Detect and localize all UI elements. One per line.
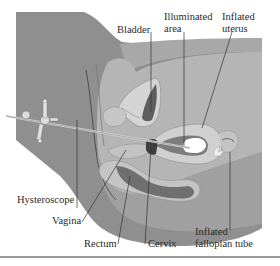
label-illuminated-area-2: area <box>164 23 182 34</box>
label-rectum: Rectum <box>84 238 117 249</box>
label-bladder: Bladder <box>117 24 151 35</box>
label-cervix: Cervix <box>148 238 177 249</box>
hysteroscopy-diagram: Bladder Illuminated area Inflated uterus… <box>0 0 280 266</box>
pubic-bone <box>103 107 126 126</box>
bottom-rule <box>0 256 280 258</box>
label-inflated-uterus-1: Inflated <box>222 11 255 22</box>
label-hysteroscope: Hysteroscope <box>17 194 74 205</box>
label-illuminated-area-1: Illuminated <box>164 11 213 22</box>
label-inflated-fallopian-tube-2: fallopian tube <box>195 238 253 249</box>
label-vagina: Vagina <box>52 215 81 226</box>
label-inflated-uterus-2: uterus <box>222 23 248 34</box>
illuminated-area <box>183 138 206 153</box>
label-inflated-fallopian-tube-1: Inflated <box>195 226 228 237</box>
